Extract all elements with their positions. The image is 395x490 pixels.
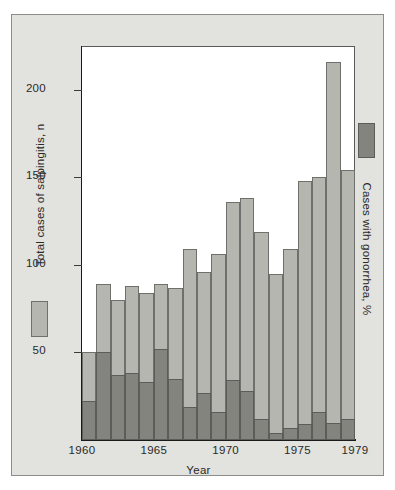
bar-gonorrhea-share[interactable] — [211, 412, 225, 440]
x-axis-tick-label: 1979 — [342, 444, 369, 456]
legend-gonorrhea-label: Cases with gonorrhea, % — [361, 159, 373, 339]
bar-total-cases[interactable] — [326, 62, 340, 440]
bar-gonorrhea-share[interactable] — [226, 380, 240, 440]
bar-group[interactable] — [139, 46, 153, 440]
x-axis-tick-label: 1965 — [140, 444, 167, 456]
bar-gonorrhea-share[interactable] — [298, 424, 312, 440]
bar-group[interactable] — [154, 46, 168, 440]
legend-gonorrhea: Cases with gonorrhea, % — [355, 123, 381, 333]
bar-total-cases[interactable] — [312, 177, 326, 440]
y-axis-tick-label: 100 — [26, 257, 46, 269]
bar-gonorrhea-share[interactable] — [154, 349, 168, 440]
bar-gonorrhea-share[interactable] — [111, 375, 125, 440]
bar-total-cases[interactable] — [283, 249, 297, 440]
bar-gonorrhea-share[interactable] — [341, 419, 355, 440]
bar-gonorrhea-share[interactable] — [254, 419, 268, 440]
legend-total-cases: Total cases of salpingitis, n — [28, 87, 52, 337]
legend-total-cases-swatch — [31, 301, 48, 337]
x-axis-tick-label: 1975 — [284, 444, 311, 456]
x-axis-tick-label: 1960 — [69, 444, 96, 456]
bar-group[interactable] — [269, 46, 283, 440]
bar-group[interactable] — [240, 46, 254, 440]
y-axis-tick-mark — [74, 177, 82, 178]
y-axis-tick-label: 200 — [26, 82, 46, 94]
x-axis-tick-label: 1970 — [212, 444, 239, 456]
chart-panel: Total cases of salpingitis, n Cases with… — [11, 14, 384, 476]
bar-gonorrhea-share[interactable] — [312, 412, 326, 440]
x-axis-title: Year — [12, 464, 385, 476]
bar-gonorrhea-share[interactable] — [240, 391, 254, 440]
y-axis-tick-mark — [74, 352, 82, 353]
bar-group[interactable] — [326, 46, 340, 440]
bar-group[interactable] — [111, 46, 125, 440]
bar-group[interactable] — [197, 46, 211, 440]
y-axis-tick-mark — [74, 265, 82, 266]
bar-group[interactable] — [125, 46, 139, 440]
bar-gonorrhea-share[interactable] — [139, 382, 153, 440]
bar-gonorrhea-share[interactable] — [269, 433, 283, 440]
y-axis-tick-label: 50 — [33, 344, 46, 356]
plot-area — [82, 46, 355, 440]
bar-group[interactable] — [312, 46, 326, 440]
bar-group[interactable] — [226, 46, 240, 440]
bar-group[interactable] — [341, 46, 355, 440]
chart-figure: Total cases of salpingitis, n Cases with… — [0, 0, 395, 490]
bar-total-cases[interactable] — [269, 274, 283, 440]
bar-group[interactable] — [96, 46, 110, 440]
bar-total-cases[interactable] — [254, 232, 268, 440]
bar-total-cases[interactable] — [298, 181, 312, 440]
bar-gonorrhea-share[interactable] — [168, 379, 182, 440]
bar-group[interactable] — [298, 46, 312, 440]
bar-gonorrhea-share[interactable] — [125, 373, 139, 440]
bar-group[interactable] — [82, 46, 96, 440]
y-axis-tick-label: 150 — [26, 169, 46, 181]
legend-total-cases-label: Total cases of salpingitis, n — [34, 77, 46, 313]
bar-total-cases[interactable] — [341, 170, 355, 440]
bar-group[interactable] — [168, 46, 182, 440]
y-axis-tick-mark — [74, 90, 82, 91]
bar-gonorrhea-share[interactable] — [283, 428, 297, 440]
bar-group[interactable] — [211, 46, 225, 440]
bar-gonorrhea-share[interactable] — [183, 407, 197, 440]
legend-gonorrhea-swatch — [358, 123, 375, 158]
bar-gonorrhea-share[interactable] — [82, 401, 96, 440]
bar-gonorrhea-share[interactable] — [326, 423, 340, 441]
bar-group[interactable] — [283, 46, 297, 440]
bar-gonorrhea-share[interactable] — [197, 393, 211, 440]
bar-gonorrhea-share[interactable] — [96, 352, 110, 440]
bar-group[interactable] — [183, 46, 197, 440]
bar-group[interactable] — [254, 46, 268, 440]
